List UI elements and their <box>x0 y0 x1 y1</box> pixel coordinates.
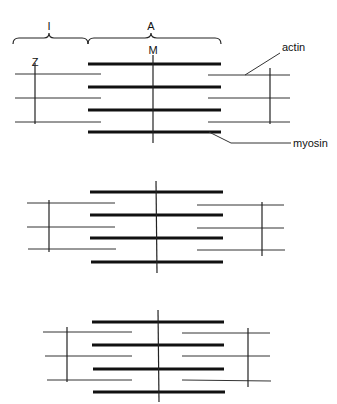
sarcomere-diagram: I A M Z actin myosin <box>0 0 337 404</box>
a-band-brace <box>88 33 221 44</box>
sarcomere-partially-contracted <box>27 181 285 273</box>
band-brace: I A <box>13 20 221 44</box>
m-line <box>158 310 159 402</box>
myosin-label: myosin <box>293 137 328 149</box>
sarcomere-relaxed: actin myosin <box>15 41 328 149</box>
i-band-brace <box>13 33 88 44</box>
sarcomere-contracted <box>43 310 271 402</box>
actin-label: actin <box>282 41 305 53</box>
actin-filament <box>182 380 271 381</box>
myosin-leader-line <box>209 132 291 143</box>
a-band-label: A <box>147 20 155 32</box>
m-line-label: M <box>148 44 157 56</box>
actin-leader-line <box>245 53 280 75</box>
i-band-label: I <box>47 20 50 32</box>
m-line <box>156 181 157 273</box>
